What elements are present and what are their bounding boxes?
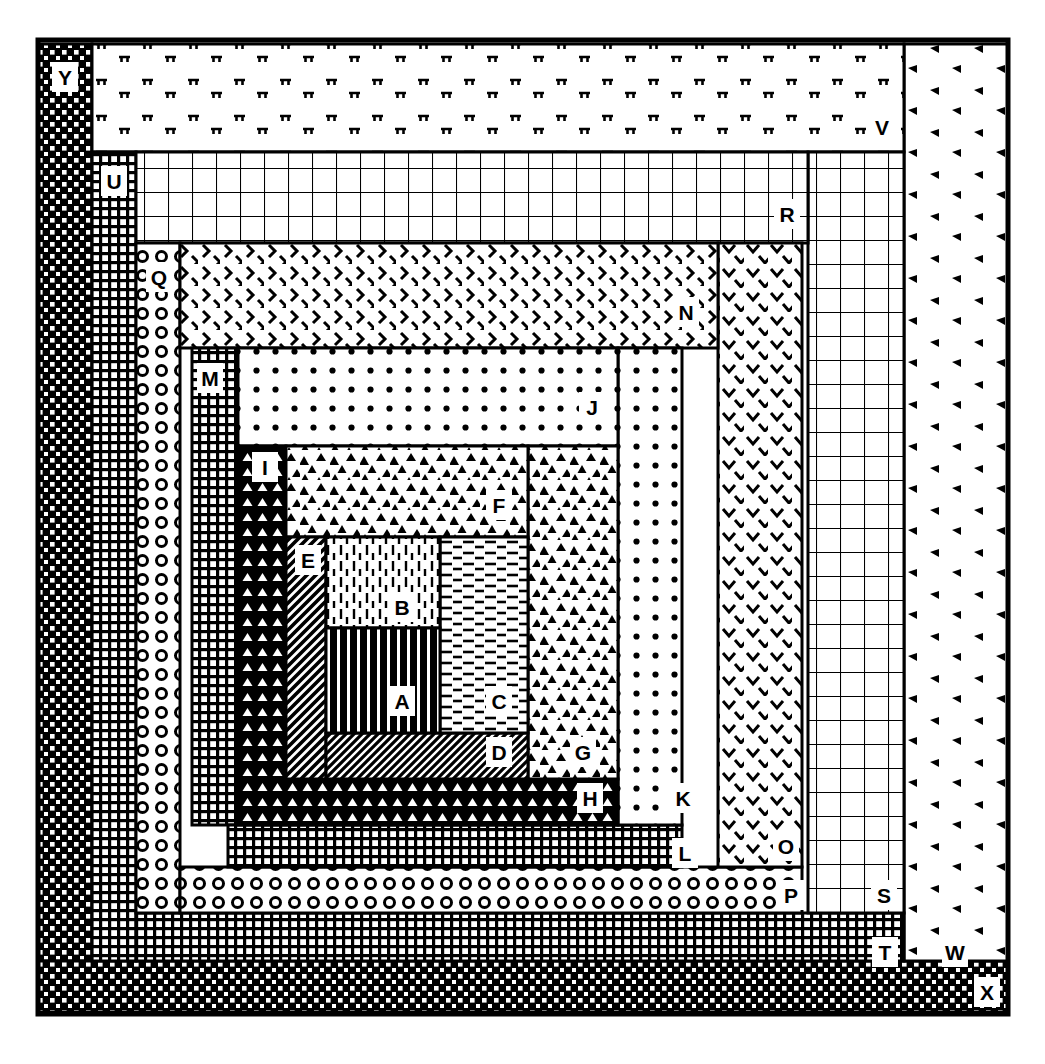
- region-b: [326, 537, 440, 628]
- region-label-s: S: [871, 880, 897, 910]
- region-label-k: K: [670, 783, 696, 813]
- region-label-i: I: [252, 452, 278, 482]
- region-j: [238, 348, 618, 446]
- hatch-pattern-figure: ABCDEFGHIJKLMNOPQRSTUVWXY: [0, 0, 1045, 1064]
- region-q: [136, 243, 180, 913]
- region-o: [718, 243, 802, 867]
- region-label-g: G: [570, 737, 596, 767]
- region-a: [326, 628, 440, 733]
- region-h: [238, 779, 618, 825]
- region-m: [192, 348, 238, 825]
- region-x: [38, 961, 1008, 1012]
- region-label-e: E: [295, 545, 321, 575]
- region-r: [136, 152, 808, 243]
- region-u: [92, 152, 136, 961]
- region-n: [180, 243, 718, 348]
- region-y: [38, 44, 92, 961]
- region-k: [618, 348, 682, 825]
- region-label-n: N: [673, 297, 699, 327]
- region-v: [92, 44, 904, 152]
- region-l: [228, 825, 682, 867]
- region-label-o: O: [773, 831, 799, 861]
- region-label-q: Q: [146, 262, 172, 292]
- region-label-r: R: [774, 199, 800, 229]
- region-label-d: D: [486, 737, 512, 767]
- region-c: [440, 537, 528, 733]
- region-label-l: L: [672, 838, 698, 868]
- region-label-h: H: [577, 783, 603, 813]
- region-t: [136, 913, 904, 961]
- region-label-t: T: [872, 937, 898, 967]
- region-g: [528, 446, 618, 779]
- region-label-y: Y: [52, 62, 78, 92]
- region-label-v: V: [869, 112, 895, 142]
- region-w: [904, 44, 1008, 961]
- region-label-j: J: [579, 392, 605, 422]
- region-s: [808, 152, 904, 913]
- region-label-x: X: [974, 977, 1000, 1007]
- region-label-b: B: [389, 592, 415, 622]
- region-p: [180, 867, 802, 913]
- region-label-f: F: [486, 490, 512, 520]
- region-label-c: C: [486, 686, 512, 716]
- region-label-p: P: [778, 880, 804, 910]
- region-label-u: U: [101, 166, 127, 196]
- region-label-a: A: [389, 686, 415, 716]
- region-i: [238, 446, 286, 779]
- region-label-w: W: [942, 937, 968, 967]
- region-label-m: M: [197, 363, 223, 393]
